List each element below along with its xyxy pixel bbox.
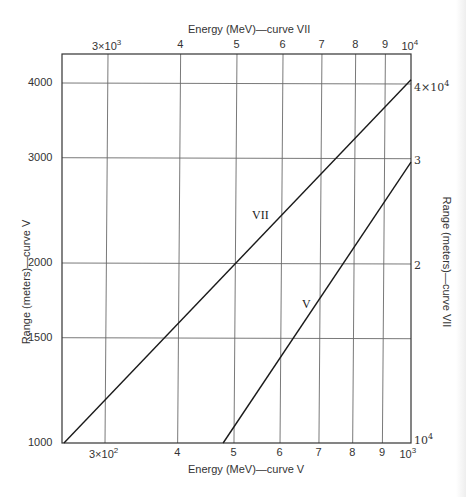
vertical-gridline	[319, 54, 322, 443]
left-tick-label: 1000	[28, 436, 52, 448]
top-tick-label: 104	[402, 38, 419, 52]
bottom-tick-label: 3×102	[89, 446, 118, 460]
top-tick-label: 8	[352, 38, 358, 50]
horizontal-gridline	[62, 158, 411, 159]
right-axis-title: Range (meters)—curve VII	[441, 187, 453, 337]
top-tick-label: 4	[177, 38, 183, 50]
left-tick-label: 3000	[28, 151, 52, 163]
bottom-axis-title: Energy (MeV)—curve V	[188, 463, 304, 475]
bottom-tick-label: 6	[277, 446, 283, 458]
data-curves	[64, 80, 411, 443]
left-tick-label: 4000	[28, 76, 52, 88]
vertical-gridline	[105, 54, 108, 443]
curve-vii	[64, 80, 411, 443]
right-tick-label: 4×104	[414, 79, 449, 94]
bottom-tick-label: 7	[315, 446, 321, 458]
top-tick-label: 3×103	[92, 38, 121, 52]
top-tick-label: 6	[280, 38, 286, 50]
top-tick-label: 5	[233, 38, 239, 50]
bottom-tick-label: 5	[230, 446, 236, 458]
left-axis-title: Range (meters)—curve V	[20, 212, 32, 352]
top-tick-label: 7	[318, 38, 324, 50]
vertical-gridline	[234, 54, 237, 443]
horizontal-gridline	[62, 338, 411, 339]
bottom-tick-label: 9	[379, 446, 385, 458]
top-tick-label: 9	[382, 38, 388, 50]
grid-lines	[62, 54, 411, 443]
bottom-tick-label: 103	[400, 446, 417, 460]
curve-vii-label: VII	[252, 208, 269, 223]
bottom-tick-label: 4	[174, 446, 180, 458]
bottom-tick-label: 8	[349, 446, 355, 458]
curve-v-label: V	[302, 297, 311, 312]
vertical-gridline	[382, 54, 385, 443]
vertical-gridline	[178, 54, 181, 443]
horizontal-gridline	[62, 83, 411, 84]
right-tick-label: 2	[414, 259, 421, 272]
right-tick-label: 3	[414, 154, 421, 167]
chart-plot-area	[0, 0, 466, 497]
top-axis-title: Energy (MeV)—curve VII	[188, 23, 310, 35]
right-tick-label: 104	[414, 432, 433, 447]
vertical-gridline	[280, 54, 283, 443]
